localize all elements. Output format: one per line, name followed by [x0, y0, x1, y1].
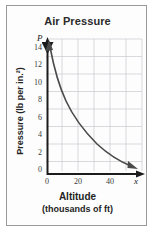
y-tick-label: 12 [24, 60, 42, 69]
y-tick-label: 0 [28, 165, 42, 174]
x-axis-title: Altitude [7, 191, 148, 203]
x-tick-label: 40 [102, 177, 118, 186]
x-axis-subtitle: (thousands of ft) [7, 203, 148, 215]
plot-area: P x 0 2 4 6 8 10 12 14 0 20 40 Pressure … [7, 6, 148, 227]
figure-card: Air Pressure [6, 5, 147, 226]
y-tick-label: 10 [24, 78, 42, 87]
y-tick-label: 8 [28, 95, 42, 104]
x-tick-label: 0 [39, 177, 55, 186]
x-tick-label: 20 [70, 177, 86, 186]
x-axis-title-group: Altitude (thousands of ft) [7, 191, 148, 215]
y-axis-variable-label: P [37, 33, 43, 43]
y-tick-label: 6 [28, 113, 42, 122]
y-tick-label: 4 [28, 130, 42, 139]
y-axis-title: Pressure (lb per in.²) [15, 51, 25, 171]
y-tick-label: 14 [24, 43, 42, 52]
grid-lines-vertical [62, 39, 142, 171]
x-axis-variable-label: x [134, 176, 138, 186]
y-tick-label: 2 [28, 148, 42, 157]
curve-end-arrowhead [128, 161, 139, 169]
